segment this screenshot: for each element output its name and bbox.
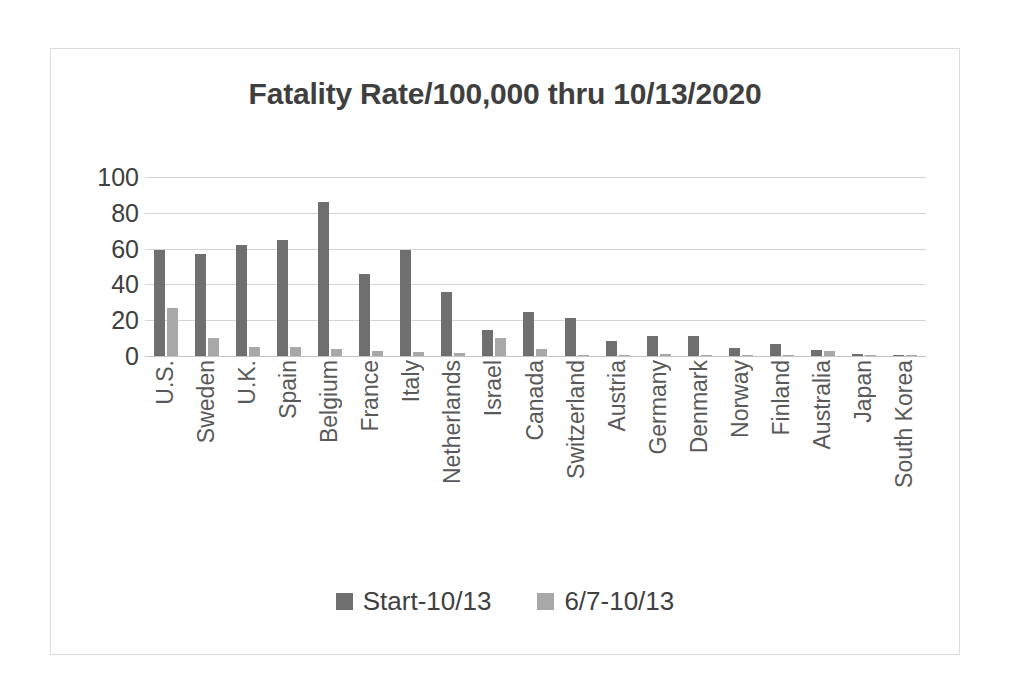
bar[interactable] <box>906 355 917 356</box>
y-axis-tick-label: 20 <box>67 308 139 333</box>
bar-group[interactable] <box>474 177 515 356</box>
plot-area <box>145 177 926 356</box>
x-axis-tick-label: Australia <box>811 360 834 449</box>
bar[interactable] <box>578 355 589 356</box>
bar-group[interactable] <box>433 177 474 356</box>
x-axis-tick-label: Sweden <box>195 360 218 443</box>
bar[interactable] <box>249 347 260 356</box>
bar[interactable] <box>277 240 288 356</box>
x-axis: U.S.SwedenU.K.SpainBelgiumFranceItalyNet… <box>145 360 926 575</box>
y-axis-tick-label: 100 <box>67 165 139 190</box>
bar[interactable] <box>536 349 547 356</box>
y-axis: 100806040200 <box>67 177 139 356</box>
bar[interactable] <box>783 355 794 356</box>
bar[interactable] <box>236 245 247 356</box>
y-axis-tick-label: 80 <box>67 200 139 225</box>
x-axis-tick-label: Finland <box>770 360 793 435</box>
chart-legend: Start-10/136/7-10/13 <box>51 586 959 617</box>
bar[interactable] <box>441 292 452 356</box>
x-axis-tick-label: U.K. <box>236 360 259 405</box>
bar[interactable] <box>742 355 753 356</box>
y-axis-tick-label: 60 <box>67 236 139 261</box>
bar[interactable] <box>372 351 383 356</box>
bar-group[interactable] <box>227 177 268 356</box>
bar[interactable] <box>688 336 699 356</box>
x-axis-tick-label: Japan <box>852 360 875 423</box>
bar-group[interactable] <box>597 177 638 356</box>
bar-group[interactable] <box>186 177 227 356</box>
chart-title: Fatality Rate/100,000 thru 10/13/2020 <box>51 77 959 111</box>
bar-group[interactable] <box>268 177 309 356</box>
bar-group[interactable] <box>638 177 679 356</box>
legend-item[interactable]: Start-10/13 <box>336 586 492 617</box>
bar-group[interactable] <box>351 177 392 356</box>
x-axis-tick-label: Austria <box>606 360 629 432</box>
bar[interactable] <box>619 355 630 356</box>
bar[interactable] <box>331 349 342 356</box>
x-axis-tick-label: South Korea <box>893 360 916 488</box>
x-axis-tick-label: Norway <box>729 360 752 438</box>
gridline <box>145 356 926 357</box>
bar[interactable] <box>647 336 658 356</box>
bar[interactable] <box>852 354 863 356</box>
bar[interactable] <box>523 312 534 356</box>
bar[interactable] <box>865 355 876 356</box>
x-axis-tick-label: Canada <box>524 360 547 441</box>
bar-group[interactable] <box>679 177 720 356</box>
bar-group[interactable] <box>720 177 761 356</box>
x-axis-tick-label: Netherlands <box>441 360 464 484</box>
x-axis-tick-label: France <box>359 360 382 432</box>
bar[interactable] <box>606 341 617 356</box>
bar[interactable] <box>660 354 671 356</box>
legend-swatch-icon <box>336 593 353 610</box>
bar-group[interactable] <box>885 177 926 356</box>
y-axis-tick-label: 40 <box>67 272 139 297</box>
bar[interactable] <box>167 308 178 356</box>
bar[interactable] <box>701 355 712 356</box>
chart-frame: Fatality Rate/100,000 thru 10/13/2020 10… <box>50 48 960 655</box>
bar-group[interactable] <box>556 177 597 356</box>
legend-label: Start-10/13 <box>363 586 492 617</box>
y-axis-tick-label: 0 <box>67 344 139 369</box>
bar[interactable] <box>811 350 822 356</box>
bar[interactable] <box>770 344 781 356</box>
x-axis-tick-label: Belgium <box>318 360 341 443</box>
x-axis-tick-label: Germany <box>647 360 670 455</box>
bar-group[interactable] <box>392 177 433 356</box>
bar-group[interactable] <box>145 177 186 356</box>
x-axis-tick-label: U.S. <box>154 360 177 405</box>
bar[interactable] <box>495 338 506 356</box>
x-axis-tick-label: Spain <box>277 360 300 419</box>
bar[interactable] <box>195 254 206 356</box>
bar-group[interactable] <box>762 177 803 356</box>
x-axis-tick-label: Israel <box>482 360 505 416</box>
bar-group[interactable] <box>515 177 556 356</box>
bar-group[interactable] <box>844 177 885 356</box>
bar[interactable] <box>729 348 740 356</box>
x-axis-tick-label: Switzerland <box>565 360 588 479</box>
bar[interactable] <box>413 352 424 356</box>
bar-group[interactable] <box>309 177 350 356</box>
bar[interactable] <box>482 330 493 356</box>
bar[interactable] <box>824 351 835 356</box>
legend-label: 6/7-10/13 <box>564 586 674 617</box>
bar[interactable] <box>359 274 370 356</box>
bar[interactable] <box>400 250 411 356</box>
bar[interactable] <box>290 347 301 356</box>
bar[interactable] <box>318 202 329 356</box>
legend-swatch-icon <box>537 593 554 610</box>
x-axis-tick-label: Denmark <box>688 360 711 453</box>
bar-group[interactable] <box>803 177 844 356</box>
bar[interactable] <box>565 318 576 356</box>
bar[interactable] <box>454 353 465 356</box>
bar[interactable] <box>154 250 165 356</box>
bar[interactable] <box>208 338 219 356</box>
legend-item[interactable]: 6/7-10/13 <box>537 586 674 617</box>
x-axis-tick-label: Italy <box>400 360 423 402</box>
bar[interactable] <box>893 355 904 356</box>
